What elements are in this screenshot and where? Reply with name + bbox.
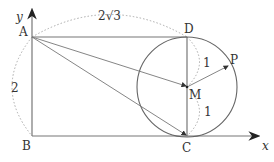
label-P: P xyxy=(230,53,238,67)
label-A: A xyxy=(18,25,28,39)
label-y-axis: y xyxy=(15,10,23,24)
label-x-axis: x xyxy=(262,139,269,153)
label-M: M xyxy=(189,88,201,102)
vector-AC xyxy=(32,37,186,135)
label-B: B xyxy=(22,139,31,153)
label-height: 2 xyxy=(11,81,19,95)
point-M xyxy=(186,86,189,89)
dm-dimension-arc xyxy=(187,37,200,87)
geometry-diagram: A B C D M P x y 2√3 2 1 1 xyxy=(0,0,274,162)
label-C: C xyxy=(182,141,191,155)
label-D: D xyxy=(184,22,194,36)
label-MC: 1 xyxy=(204,105,212,119)
label-DM: 1 xyxy=(203,56,211,70)
label-width: 2√3 xyxy=(98,9,121,23)
vector-AM xyxy=(32,37,186,86)
